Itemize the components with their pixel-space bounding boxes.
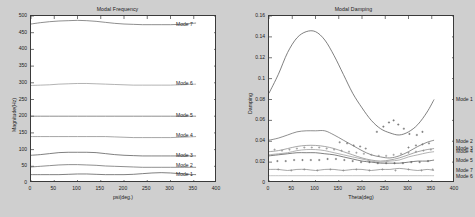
x-tick-label: 300 (165, 185, 173, 191)
x-tick-label: 100 (310, 185, 318, 191)
x-tick-label: 50 (288, 185, 294, 191)
y-tick-label: 0 (242, 179, 265, 185)
series-label-mode-5: Mode 5 (176, 112, 193, 118)
series-label-mode-6: Mode 6 (176, 80, 193, 86)
modal-damping-title: Modal Damping (236, 6, 471, 12)
y-tick-label: 0.1 (242, 75, 265, 81)
x-tick-label: 100 (72, 185, 80, 191)
modal-damping-xlabel: Theta(deg) (348, 194, 373, 200)
x-tick-label: 150 (96, 185, 104, 191)
modal-damping-ylabel: Damping (247, 93, 253, 114)
x-tick-label: 150 (334, 185, 342, 191)
x-tick-label: 350 (189, 185, 197, 191)
x-tick-label: 350 (427, 185, 435, 191)
modal-damping-panel: Modal Damping 00.020.040.060.080.10.120.… (236, 2, 471, 215)
y-tick-label: 350 (4, 62, 27, 68)
x-tick-label: 300 (403, 185, 411, 191)
y-tick-label: 300 (4, 79, 27, 85)
y-tick-label: 0.14 (242, 33, 265, 39)
modal-damping-plot-area (269, 16, 454, 182)
y-tick-label: 0 (4, 179, 27, 185)
x-tick-label: 50 (50, 185, 56, 191)
series-label-mode-3: Mode 3 (176, 152, 193, 158)
series-label-mode-7: Mode 7 (456, 167, 473, 173)
y-tick-label: 0.08 (242, 96, 265, 102)
x-tick-label: 200 (119, 185, 127, 191)
y-tick-label: 0.06 (242, 116, 265, 122)
y-tick-label: 0.16 (242, 12, 265, 18)
series-label-mode-6: Mode 6 (456, 173, 473, 179)
x-tick-label: 400 (212, 185, 220, 191)
x-tick-label: 400 (450, 185, 458, 191)
series-label-mode-2: Mode 2 (456, 138, 473, 144)
series-label-mode-4: Mode 4 (456, 148, 473, 154)
series-label-mode-5: Mode 5 (456, 157, 473, 163)
series-label-mode-1: Mode 1 (176, 171, 193, 177)
x-tick-label: 200 (357, 185, 365, 191)
series-label-mode-2: Mode 2 (176, 162, 193, 168)
x-tick-label: 0 (267, 185, 270, 191)
y-tick-label: 0.04 (242, 137, 265, 143)
modal-frequency-xlabel: psi(deg.) (113, 194, 133, 200)
y-tick-label: 500 (4, 12, 27, 18)
x-tick-label: 0 (29, 185, 32, 191)
x-tick-label: 250 (142, 185, 150, 191)
x-tick-label: 250 (380, 185, 388, 191)
modal-frequency-ylabel: Magnitude(Hz) (11, 98, 17, 132)
matlab-figure-window: Modal Frequency 050100150200250300350400… (0, 0, 475, 217)
modal-frequency-title: Modal Frequency (2, 6, 233, 12)
series-label-mode-1: Mode 1 (456, 96, 473, 102)
series-label-mode-4: Mode 4 (176, 132, 193, 138)
modal-frequency-panel: Modal Frequency 050100150200250300350400… (2, 2, 233, 215)
y-tick-label: 0.02 (242, 158, 265, 164)
series-label-mode-7: Mode 7 (176, 21, 193, 27)
modal-damping-axes (268, 15, 454, 182)
y-tick-label: 0.12 (242, 54, 265, 60)
y-tick-label: 400 (4, 45, 27, 51)
y-tick-label: 450 (4, 29, 27, 35)
y-tick-label: 50 (4, 162, 27, 168)
y-tick-label: 100 (4, 146, 27, 152)
